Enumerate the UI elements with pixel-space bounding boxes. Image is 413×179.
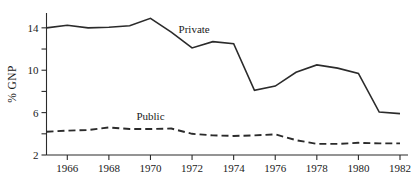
x-tick-label-1978: 1978 [306, 162, 329, 174]
chart-container: 261014 196619681970197219741976197819801… [0, 0, 413, 179]
data-series-group [47, 18, 401, 144]
axes-group [47, 13, 409, 155]
y-tick-label-2: 2 [33, 149, 39, 161]
series-annotation-private: Private [179, 23, 210, 35]
series-annotations: PrivatePublic [136, 23, 209, 122]
x-tick-label-1970: 1970 [139, 162, 162, 174]
x-tick-label-1974: 1974 [223, 162, 246, 174]
x-tick-label-1968: 1968 [98, 162, 121, 174]
x-tick-label-1976: 1976 [264, 162, 287, 174]
x-tick-label-1972: 1972 [181, 162, 203, 174]
x-tick-label-1966: 1966 [56, 162, 79, 174]
y-tick-label-14: 14 [28, 22, 40, 34]
x-axis-tick-labels: 196619681970197219741976197819801982 [56, 162, 411, 174]
y-tick-label-10: 10 [28, 64, 40, 76]
y-axis-label: % GNP [6, 65, 18, 102]
line-chart: 261014 196619681970197219741976197819801… [0, 0, 413, 179]
series-line-private [47, 18, 401, 113]
y-axis-ticks [42, 28, 47, 155]
x-tick-label-1982: 1982 [389, 162, 411, 174]
series-annotation-public: Public [136, 110, 164, 122]
x-axis-ticks [67, 155, 400, 160]
y-tick-label-6: 6 [33, 107, 39, 119]
y-axis-tick-labels: 261014 [28, 22, 40, 161]
x-tick-label-1980: 1980 [347, 162, 370, 174]
series-line-public [47, 127, 401, 143]
